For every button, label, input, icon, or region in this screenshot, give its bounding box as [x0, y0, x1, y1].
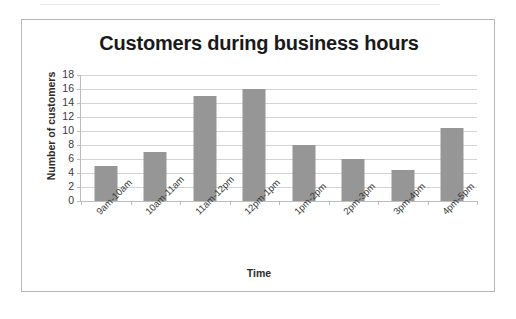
category-tick	[230, 201, 231, 205]
y-tick-label: 18	[50, 68, 74, 80]
y-tick-label: 16	[50, 82, 74, 94]
category-tick	[131, 201, 132, 205]
category-tick	[428, 201, 429, 205]
bar[interactable]	[193, 96, 216, 201]
y-tick-label: 4	[50, 166, 74, 178]
x-axis-title: Time	[22, 267, 496, 279]
category-tick	[329, 201, 330, 205]
y-tick-label: 0	[50, 194, 74, 206]
category-tick	[477, 201, 478, 205]
y-tick-label: 2	[50, 180, 74, 192]
category-tick	[180, 201, 181, 205]
y-tick-label: 14	[50, 96, 74, 108]
y-tick-label: 12	[50, 110, 74, 122]
category-tick	[81, 201, 82, 205]
category-tick	[279, 201, 280, 205]
chart-container: Customers during business hours Number o…	[21, 19, 495, 292]
category-tick	[378, 201, 379, 205]
y-tick-label: 8	[50, 138, 74, 150]
y-tick-label: 6	[50, 152, 74, 164]
bar[interactable]	[243, 89, 266, 201]
scan-artifact-line	[40, 4, 440, 5]
y-tick-label: 10	[50, 124, 74, 136]
chart-title: Customers during business hours	[22, 32, 496, 55]
